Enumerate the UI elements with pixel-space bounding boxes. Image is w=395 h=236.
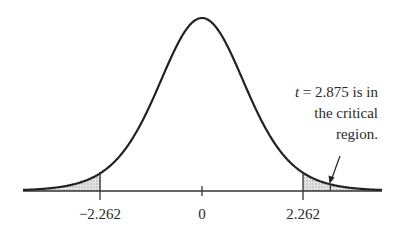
- left-critical-region: [23, 173, 101, 191]
- annotation-line-1: t = 2.875 is in: [295, 84, 379, 100]
- annotation-arrow: [329, 156, 340, 184]
- annotation-line-2: the critical: [314, 105, 378, 121]
- right-critical-region: [303, 173, 382, 191]
- distribution-curve: [23, 18, 382, 190]
- annotation-line-1-text: = 2.875 is in: [299, 84, 378, 100]
- annotation-line-3: region.: [336, 126, 378, 142]
- tick-label-zero: 0: [198, 206, 206, 222]
- tick-label-neg: −2.262: [79, 206, 121, 222]
- t-distribution-chart: −2.262 0 2.262 t = 2.875 is in the criti…: [0, 0, 395, 236]
- tick-label-pos: 2.262: [286, 206, 320, 222]
